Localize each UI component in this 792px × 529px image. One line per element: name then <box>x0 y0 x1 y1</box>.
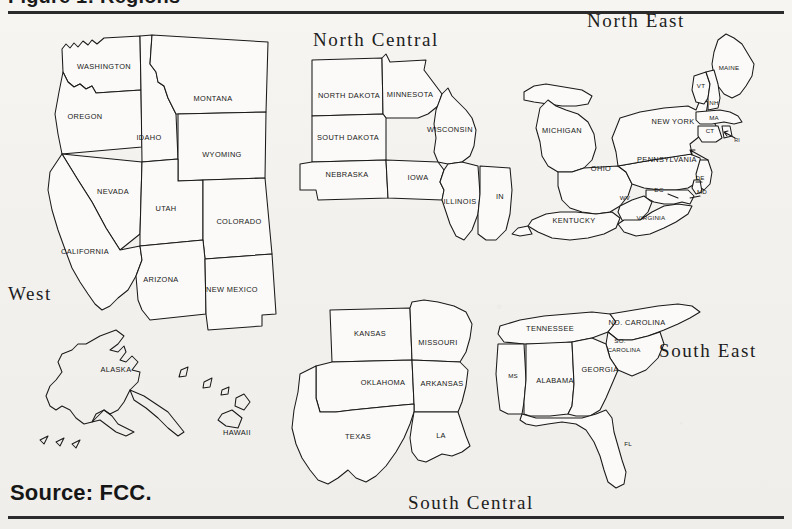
state-label-nd: NORTH DAKOTA <box>318 91 380 100</box>
state-michigan-upper <box>524 84 592 106</box>
state-label-ny: NEW YORK <box>652 117 695 126</box>
state-mississippi <box>496 344 526 414</box>
region-label-north-central: North Central <box>313 29 439 51</box>
state-label-ia: IOWA <box>408 173 429 182</box>
state-label-nc: NO. CAROLINA <box>608 318 665 327</box>
state-label-ct: CT <box>706 127 715 134</box>
state-label-mt: MONTANA <box>194 94 233 103</box>
state-label-pa: PENNSYLVANIA <box>637 155 697 164</box>
state-michigan-lower <box>536 100 596 172</box>
state-label-ma: MA <box>709 114 719 121</box>
state-label-az: ARIZONA <box>143 275 178 284</box>
state-indiana <box>478 166 512 240</box>
state-minnesota <box>382 54 442 118</box>
source-note: Source: FCC. <box>10 480 152 506</box>
state-label-nh: NH <box>709 99 718 106</box>
state-kentucky-tail <box>512 226 532 236</box>
state-label-me: MAINE <box>719 64 740 71</box>
us-regions-map: WASHINGTONOREGONIDAHOMONTANAWYOMINGNEVAD… <box>0 14 792 514</box>
state-label-mn: MINNESOTA <box>387 90 434 99</box>
state-hawaii <box>179 367 250 428</box>
state-nebraska <box>300 160 388 200</box>
state-label-mi: MICHIGAN <box>542 126 582 135</box>
state-florida <box>520 410 626 488</box>
state-label-oh: OHIO <box>591 164 611 173</box>
state-missouri <box>410 300 472 362</box>
state-label-ak: ALASKA <box>101 365 132 374</box>
alaska-aleutians <box>40 436 80 448</box>
state-label-nm: NEW MEXICO <box>206 285 258 294</box>
state-label-ga: GEORGIA <box>582 365 619 374</box>
state-label-fl: FL <box>624 440 632 447</box>
alaska-southeast-strip <box>130 390 184 436</box>
region-label-south-central: South Central <box>408 492 534 514</box>
state-label-de: DE <box>696 174 705 181</box>
state-label-ok: OKLAHOMA <box>361 378 406 387</box>
state-label-ky: KENTUCKY <box>552 216 595 225</box>
state-label-il: ILLINOIS <box>443 197 476 206</box>
figure-page: Figure 1: Regions <box>0 0 792 529</box>
region-west-shapes <box>40 35 276 448</box>
state-label-ca: CALIFORNIA <box>61 247 109 256</box>
state-label-wa: WASHINGTON <box>77 62 131 71</box>
state-label-in: IN <box>496 192 504 201</box>
state-label-dc: DC <box>654 186 664 193</box>
region-label-west: West <box>8 283 52 305</box>
state-label-md: MD <box>697 188 707 195</box>
state-label-la: LA <box>436 431 446 440</box>
state-label-mo: MISSOURI <box>418 338 457 347</box>
state-label-wy: WYOMING <box>202 150 241 159</box>
state-label-nv: NEVADA <box>97 187 129 196</box>
region-south-central-shapes <box>292 300 472 484</box>
state-massachusetts <box>696 110 742 124</box>
region-label-north-east: North East <box>587 10 685 32</box>
region-north-east-shapes <box>512 34 754 240</box>
region-north-central-shapes <box>300 54 512 240</box>
state-label-sc2: CAROLINA <box>607 346 641 353</box>
state-label-sc: SO. <box>614 337 625 344</box>
state-label-id: IDAHO <box>136 133 161 142</box>
state-label-or: OREGON <box>68 112 103 121</box>
region-label-south-east: South East <box>659 340 757 362</box>
state-label-va: VIRGINIA <box>637 214 666 221</box>
alaska-peninsula <box>92 410 134 436</box>
state-wyoming <box>178 112 266 181</box>
state-label-vt: VT <box>697 82 705 89</box>
figure-title-text: Figure 1: Regions <box>8 0 180 8</box>
state-label-ne: NEBRASKA <box>325 170 368 179</box>
state-label-wi: WISCONSIN <box>427 125 473 134</box>
state-maryland <box>646 190 694 204</box>
state-label-tn: TENNESSEE <box>526 324 574 333</box>
bottom-rule <box>8 516 784 519</box>
state-label-ri: RI <box>734 137 740 143</box>
state-label-tx: TEXAS <box>345 432 371 441</box>
state-label-sd: SOUTH DAKOTA <box>317 133 379 142</box>
state-label-hi: HAWAII <box>223 428 251 437</box>
state-label-al: ALABAMA <box>536 376 573 385</box>
state-label-ks: KANSAS <box>354 329 386 338</box>
state-label-ut: UTAH <box>156 204 177 213</box>
state-label-ar: ARKANSAS <box>420 379 463 388</box>
state-north-dakota <box>312 58 383 116</box>
state-label-wv: WV <box>620 194 631 201</box>
state-alaska <box>46 330 140 424</box>
state-label-co: COLORADO <box>216 217 261 226</box>
state-label-ms: MS <box>508 372 518 379</box>
